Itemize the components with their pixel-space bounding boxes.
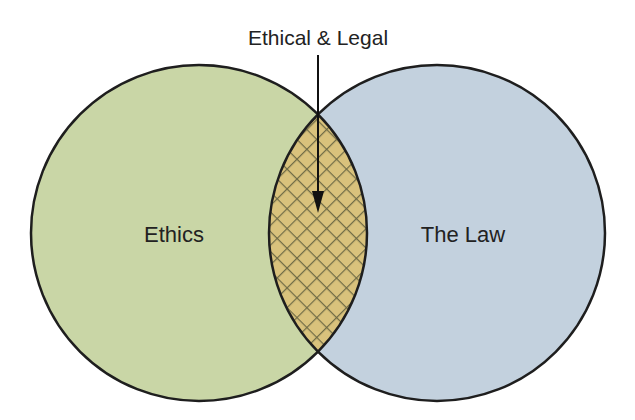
law-label: The Law [421, 222, 505, 247]
venn-diagram: Ethical & Legal Ethics The Law [0, 0, 635, 420]
ethics-label: Ethics [144, 222, 204, 247]
venn-svg: Ethical & Legal Ethics The Law [0, 0, 635, 420]
intersection-label: Ethical & Legal [248, 26, 388, 49]
